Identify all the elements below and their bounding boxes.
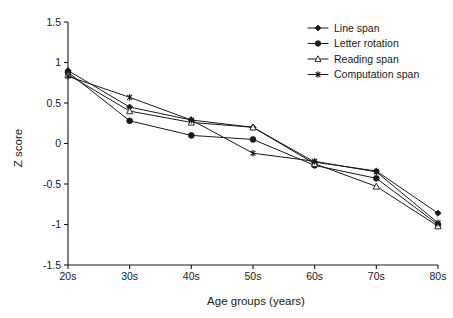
legend-label: Letter rotation (334, 37, 399, 49)
data-point-marker (127, 108, 133, 114)
series-letter-rotation (65, 69, 441, 227)
x-tick-label: 60s (306, 270, 323, 282)
data-point-marker (373, 175, 379, 181)
y-tick-label: 0.5 (46, 97, 61, 109)
y-tick-label: -0.5 (43, 178, 61, 190)
legend-label: Reading span (334, 53, 399, 65)
x-tick-label: 80s (430, 270, 447, 282)
series-computation-span (66, 73, 441, 226)
legend-label: Line span (334, 22, 380, 34)
chart-legend: Line spanLetter rotationReading spanComp… (308, 22, 419, 81)
x-tick-label: 30s (121, 270, 138, 282)
x-tick-label: 70s (368, 270, 385, 282)
line-chart: 1.510.50-0.5-1-1.5 20s30s40s50s60s70s80s… (0, 0, 453, 318)
y-tick-label: 1 (55, 56, 61, 68)
legend-marker (315, 25, 321, 31)
data-point-marker (435, 210, 441, 216)
y-tick-label: 0 (55, 137, 61, 149)
legend-item: Reading span (308, 53, 399, 65)
y-tick-label: -1 (52, 218, 61, 230)
legend-item: Letter rotation (308, 37, 399, 49)
data-point-marker (127, 94, 132, 101)
y-tick-label: 1.5 (46, 16, 61, 28)
chart-container: 1.510.50-0.5-1-1.5 20s30s40s50s60s70s80s… (0, 0, 453, 318)
y-tick-label: -1.5 (43, 259, 61, 271)
series-line (68, 76, 438, 223)
legend-item: Computation span (308, 68, 419, 80)
y-axis-title: Z score (12, 129, 24, 167)
y-axis-ticks: 1.510.50-0.5-1-1.5 (43, 16, 68, 271)
legend-label: Computation span (334, 68, 419, 80)
data-point-marker (188, 133, 194, 139)
x-axis-title: Age groups (years) (207, 295, 305, 307)
legend-item: Line span (308, 22, 380, 34)
x-tick-label: 40s (183, 270, 200, 282)
legend-marker (315, 41, 321, 47)
data-series (65, 68, 441, 229)
x-tick-label: 20s (60, 270, 77, 282)
data-point-marker (250, 137, 256, 143)
x-tick-label: 50s (245, 270, 262, 282)
x-axis-ticks: 20s30s40s50s60s70s80s (60, 265, 447, 282)
data-point-marker (127, 118, 133, 124)
